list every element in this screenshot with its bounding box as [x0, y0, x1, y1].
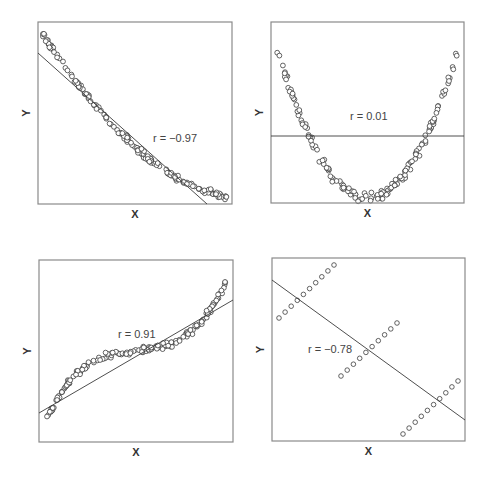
data-point — [307, 286, 312, 291]
data-point — [125, 135, 130, 140]
data-point — [454, 53, 459, 58]
x-axis-label: X — [364, 207, 372, 219]
correlation-label: r = −0.78 — [308, 343, 352, 355]
data-point — [315, 147, 320, 152]
scatter-panel-clusters: r = −0.78 X Y — [254, 258, 465, 457]
x-axis-label: X — [131, 208, 139, 220]
regression-line — [38, 53, 207, 204]
x-axis-label: X — [132, 446, 140, 458]
data-point — [313, 280, 318, 285]
data-point — [364, 350, 369, 355]
data-point — [277, 53, 282, 58]
data-point — [352, 189, 357, 194]
data-point — [70, 74, 75, 79]
data-point — [401, 432, 406, 437]
data-point — [324, 165, 329, 170]
data-point — [290, 91, 295, 96]
data-point — [328, 174, 333, 179]
y-axis-label: Y — [20, 109, 32, 117]
data-point — [214, 298, 219, 303]
data-point — [427, 124, 432, 129]
data-point — [80, 367, 85, 372]
data-point — [42, 31, 47, 36]
data-point — [297, 108, 302, 113]
data-point — [52, 50, 57, 55]
data-point — [414, 152, 419, 157]
plot-frame — [38, 22, 232, 204]
data-points — [41, 31, 229, 201]
data-point — [68, 378, 73, 383]
data-point — [413, 420, 418, 425]
data-points — [275, 50, 459, 203]
data-point — [419, 414, 424, 419]
data-point — [306, 134, 311, 139]
data-point — [392, 183, 397, 188]
data-point — [450, 385, 455, 390]
x-axis-label: X — [365, 445, 373, 457]
data-point — [363, 193, 368, 198]
data-point — [456, 379, 461, 384]
data-point — [444, 391, 449, 396]
data-point — [65, 68, 70, 73]
data-points — [45, 280, 228, 419]
data-point — [103, 350, 108, 355]
data-point — [303, 125, 308, 130]
data-point — [451, 67, 456, 72]
data-point — [86, 360, 91, 365]
data-point — [216, 292, 221, 297]
data-point — [376, 338, 381, 343]
data-point — [351, 362, 356, 367]
data-point — [341, 185, 346, 190]
data-point — [188, 328, 193, 333]
data-point — [181, 334, 186, 339]
data-point — [384, 192, 389, 197]
data-point — [410, 159, 415, 164]
data-point — [214, 192, 219, 197]
scatter-panel-convex-decreasing: r = −0.97 X Y — [20, 22, 232, 220]
data-point — [357, 356, 362, 361]
data-point — [398, 174, 403, 179]
data-point — [91, 358, 96, 363]
data-point — [73, 78, 78, 83]
data-point — [369, 190, 374, 195]
data-point — [112, 124, 117, 129]
regression-line — [272, 280, 465, 420]
data-point — [282, 71, 287, 76]
data-point — [330, 179, 335, 184]
correlation-label: r = 0.01 — [350, 110, 388, 122]
data-point — [375, 196, 380, 201]
data-point — [55, 55, 60, 60]
data-point — [339, 374, 344, 379]
y-axis-label: Y — [21, 347, 33, 355]
data-point — [389, 327, 394, 332]
data-point — [60, 390, 65, 395]
data-point — [128, 351, 133, 356]
data-point — [320, 275, 325, 280]
data-point — [370, 344, 375, 349]
data-point — [74, 372, 79, 377]
correlation-label: r = 0.91 — [118, 328, 156, 340]
data-point — [447, 79, 452, 84]
data-point — [407, 426, 412, 431]
data-point — [277, 316, 282, 321]
data-point — [425, 408, 430, 413]
data-point — [380, 196, 385, 201]
data-point — [120, 131, 125, 136]
data-point — [223, 280, 228, 285]
data-point — [219, 288, 224, 293]
data-point — [419, 142, 424, 147]
correlation-label: r = −0.97 — [153, 132, 197, 144]
y-axis-label: Y — [254, 345, 266, 353]
data-point — [43, 39, 48, 44]
regression-line — [39, 300, 233, 413]
correlation-scatter-figure: r = −0.97 X Y r = 0.01 X Y r = 0.91 X Y … — [0, 0, 490, 477]
y-axis-label: Y — [253, 108, 265, 116]
scatter-panel-cubic: r = 0.91 X Y — [21, 260, 233, 458]
data-point — [283, 310, 288, 315]
data-point — [347, 186, 352, 191]
data-point — [368, 198, 373, 203]
data-point — [443, 88, 448, 93]
data-point — [434, 111, 439, 116]
data-point — [177, 339, 182, 344]
data-point — [47, 45, 52, 50]
